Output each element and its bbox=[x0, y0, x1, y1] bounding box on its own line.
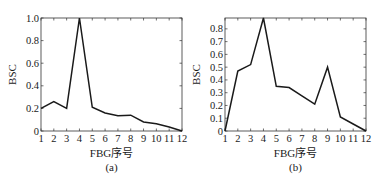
y-tick-label: 0.3 bbox=[210, 87, 223, 98]
y-tick-label: 0.6 bbox=[26, 58, 39, 69]
x-tick-label: 1 bbox=[38, 133, 43, 144]
chart-panel-a: 12345678910111200.20.40.60.81.0BSCFBG序号(… bbox=[6, 13, 187, 175]
x-tick-label: 4 bbox=[261, 133, 267, 144]
x-tick-label: 5 bbox=[90, 133, 95, 144]
y-tick-label: 0.8 bbox=[210, 23, 223, 34]
x-tick-label: 2 bbox=[235, 133, 240, 144]
y-axis-label: BSC bbox=[6, 64, 18, 85]
panel-caption: (b) bbox=[289, 161, 302, 174]
x-tick-label: 7 bbox=[115, 133, 120, 144]
x-tick-label: 12 bbox=[177, 133, 188, 144]
x-tick-label: 6 bbox=[286, 133, 291, 144]
panel-caption: (a) bbox=[105, 161, 118, 174]
y-tick-label: 0.2 bbox=[210, 100, 223, 111]
y-tick-label: 0.7 bbox=[210, 36, 223, 47]
y-tick-label: 0 bbox=[34, 126, 39, 137]
x-axis-label: FBG序号 bbox=[90, 146, 133, 159]
y-tick-label: 0.5 bbox=[210, 62, 223, 73]
x-tick-label: 10 bbox=[151, 133, 162, 144]
y-tick-label: 0.8 bbox=[26, 35, 39, 46]
x-tick-label: 2 bbox=[51, 133, 56, 144]
y-tick-label: 0.4 bbox=[26, 80, 40, 91]
y-tick-label: 0.6 bbox=[210, 49, 223, 60]
x-tick-label: 11 bbox=[348, 133, 358, 144]
y-tick-label: 1.0 bbox=[26, 13, 39, 24]
data-line bbox=[41, 18, 182, 131]
x-tick-label: 3 bbox=[248, 133, 253, 144]
plot-frame bbox=[225, 18, 366, 131]
y-tick-label: 0.2 bbox=[26, 103, 39, 114]
x-tick-label: 8 bbox=[312, 133, 317, 144]
y-axis-label: BSC bbox=[190, 64, 202, 85]
figure-canvas: 12345678910111200.20.40.60.81.0BSCFBG序号(… bbox=[0, 0, 382, 182]
x-tick-label: 8 bbox=[128, 133, 133, 144]
x-tick-label: 9 bbox=[325, 133, 330, 144]
x-tick-label: 6 bbox=[102, 133, 107, 144]
x-tick-label: 1 bbox=[222, 133, 227, 144]
x-tick-label: 5 bbox=[274, 133, 279, 144]
x-tick-label: 3 bbox=[64, 133, 69, 144]
y-tick-label: 0 bbox=[218, 126, 223, 137]
figure: 12345678910111200.20.40.60.81.0BSCFBG序号(… bbox=[0, 0, 382, 182]
y-tick-label: 0.1 bbox=[210, 113, 223, 124]
x-tick-label: 7 bbox=[299, 133, 304, 144]
y-tick-label: 0.4 bbox=[210, 74, 224, 85]
x-tick-label: 9 bbox=[141, 133, 146, 144]
x-tick-label: 11 bbox=[164, 133, 174, 144]
data-line bbox=[225, 18, 366, 131]
x-axis-label: FBG序号 bbox=[274, 146, 317, 159]
chart-panel-b: 12345678910111200.10.20.30.40.50.60.70.8… bbox=[190, 18, 371, 174]
x-tick-label: 12 bbox=[361, 133, 372, 144]
x-tick-label: 4 bbox=[77, 133, 83, 144]
x-tick-label: 10 bbox=[335, 133, 346, 144]
